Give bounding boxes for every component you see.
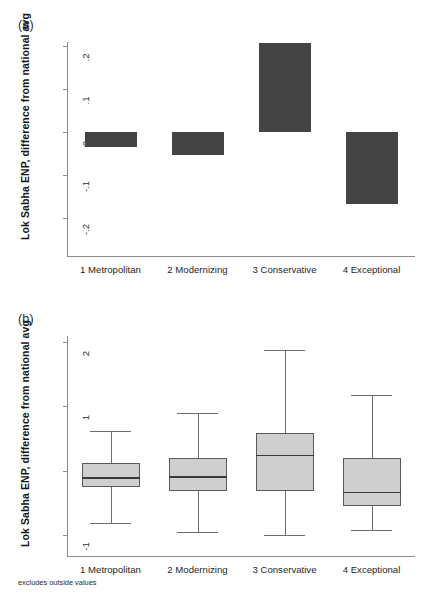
x-axis-line <box>67 256 415 257</box>
box-whisker-cap-upper-3 <box>264 350 306 351</box>
panel-a-y-axis-title: Lok Sabha ENP, difference from national … <box>19 20 31 240</box>
bar-3 <box>259 43 311 132</box>
box-whisker-cap-lower-3 <box>264 535 306 536</box>
box-3 <box>256 433 314 491</box>
y-axis-tick-label: 2 <box>80 341 91 367</box>
box-median-4 <box>343 492 401 494</box>
y-axis-line <box>67 336 68 556</box>
box-whisker-cap-upper-2 <box>177 413 219 414</box>
bar-2 <box>172 132 224 155</box>
y-axis-tick <box>63 132 67 133</box>
panel-b: (b) Lok Sabha ENP, difference from natio… <box>0 300 428 611</box>
y-axis-tick-label: .2 <box>80 45 91 71</box>
y-axis-tick <box>63 218 67 219</box>
box-whisker-cap-lower-2 <box>177 532 219 533</box>
box-1 <box>82 463 140 487</box>
y-axis-tick <box>63 89 67 90</box>
box-whisker-cap-lower-4 <box>351 530 393 531</box>
box-median-3 <box>256 455 314 457</box>
box-whisker-cap-lower-1 <box>90 523 132 524</box>
x-axis-tick-label: 4 Exceptional <box>317 264 427 275</box>
y-axis-tick <box>63 471 67 472</box>
bar-1 <box>85 132 137 147</box>
y-axis-tick-label: .1 <box>80 88 91 114</box>
y-axis-tick-label: 1 <box>80 405 91 431</box>
panel-b-footnote: excludes outside values <box>18 578 96 587</box>
y-axis-tick-label: -.2 <box>80 217 91 243</box>
box-whisker-cap-upper-1 <box>90 431 132 432</box>
y-axis-tick-label: -1 <box>80 534 91 560</box>
y-axis-tick <box>63 342 67 343</box>
y-axis-tick <box>63 406 67 407</box>
x-axis-tick-label: 4 Exceptional <box>317 564 427 575</box>
y-axis-tick <box>63 175 67 176</box>
box-median-2 <box>169 476 227 478</box>
y-axis-line <box>67 42 68 256</box>
y-axis-tick-label: -.1 <box>80 174 91 200</box>
panel-a: (a) Lok Sabha ENP, difference from natio… <box>0 0 428 300</box>
x-axis-line <box>67 556 415 557</box>
box-median-1 <box>82 477 140 479</box>
y-axis-tick <box>63 535 67 536</box>
box-whisker-cap-upper-4 <box>351 395 393 396</box>
figure-root: (a) Lok Sabha ENP, difference from natio… <box>0 0 428 611</box>
y-axis-tick <box>63 46 67 47</box>
panel-b-y-axis-title: Lok Sabha ENP, difference from national … <box>19 327 31 547</box>
bar-4 <box>346 132 398 204</box>
box-2 <box>169 458 227 491</box>
box-4 <box>343 458 401 506</box>
